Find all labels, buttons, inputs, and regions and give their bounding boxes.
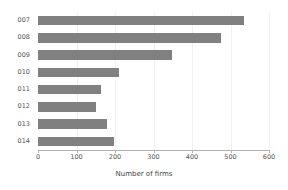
bar-008 bbox=[38, 33, 221, 42]
x-tick-mark bbox=[77, 150, 78, 153]
y-tick-label-009: 009 bbox=[18, 52, 30, 59]
bar-row bbox=[38, 102, 269, 111]
gridline bbox=[269, 12, 270, 150]
x-tick-mark bbox=[192, 150, 193, 153]
x-tick-mark bbox=[115, 150, 116, 153]
y-tick-label-010: 010 bbox=[18, 69, 30, 76]
y-axis-tick-labels: 007008009010011012013014 bbox=[0, 12, 34, 150]
x-tick-label-100: 100 bbox=[70, 153, 82, 161]
bar-row bbox=[38, 50, 269, 59]
bar-row bbox=[38, 85, 269, 94]
y-tick-label-011: 011 bbox=[18, 86, 30, 93]
x-tick-mark bbox=[231, 150, 232, 153]
x-tick-label-500: 500 bbox=[224, 153, 236, 161]
y-tick-label-014: 014 bbox=[18, 138, 30, 145]
x-tick-label-400: 400 bbox=[186, 153, 198, 161]
x-tick-mark bbox=[154, 150, 155, 153]
bar-013 bbox=[38, 119, 107, 128]
bar-chart-figure: 007008009010011012013014 010020030040050… bbox=[0, 0, 288, 190]
x-axis-title: Number of firms bbox=[0, 170, 288, 179]
y-tick-label-008: 008 bbox=[18, 34, 30, 41]
x-tick-label-200: 200 bbox=[109, 153, 121, 161]
bar-row bbox=[38, 33, 269, 42]
x-tick-label-300: 300 bbox=[147, 153, 159, 161]
x-tick-mark bbox=[38, 150, 39, 153]
bar-009 bbox=[38, 50, 172, 59]
x-tick-mark bbox=[269, 150, 270, 153]
bar-row bbox=[38, 16, 269, 25]
x-tick-label-600: 600 bbox=[263, 153, 275, 161]
y-tick-label-013: 013 bbox=[18, 121, 30, 128]
bar-row bbox=[38, 68, 269, 77]
bar-011 bbox=[38, 85, 101, 94]
x-tick-label-0: 0 bbox=[36, 153, 40, 161]
bar-007 bbox=[38, 16, 244, 25]
y-tick-label-012: 012 bbox=[18, 103, 30, 110]
bars-group bbox=[38, 12, 269, 150]
x-axis-tick-labels: 0100200300400500600 bbox=[0, 153, 288, 165]
bar-012 bbox=[38, 102, 96, 111]
bar-010 bbox=[38, 68, 119, 77]
plot-area bbox=[38, 12, 269, 150]
bar-014 bbox=[38, 137, 114, 146]
bar-row bbox=[38, 137, 269, 146]
y-tick-label-007: 007 bbox=[18, 17, 30, 24]
bar-row bbox=[38, 119, 269, 128]
